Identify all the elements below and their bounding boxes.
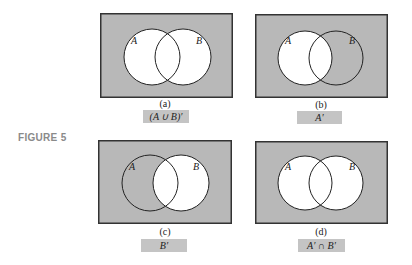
expression-a: (A ∪ B)′ [143, 110, 189, 123]
set-a-label: A [128, 161, 136, 172]
caption-d: (d) [306, 226, 336, 237]
venn-diagram-b: A B [255, 14, 388, 98]
caption-a: (a) [150, 98, 180, 109]
venn-panel-c: A B [98, 140, 232, 224]
venn-panel-d: A B [255, 141, 388, 224]
set-a-label: A [284, 161, 292, 172]
caption-c: (c) [150, 226, 180, 237]
set-b-label: B [193, 161, 199, 172]
set-a-label: A [284, 35, 292, 46]
set-b-label: B [349, 35, 355, 46]
venn-diagram-d: A B [255, 141, 388, 224]
venn-diagram-a: A B [100, 13, 233, 98]
venn-diagram-c: A B [98, 140, 232, 224]
set-a-label: A [130, 35, 138, 46]
set-b-label: B [349, 161, 355, 172]
set-b-label: B [196, 35, 202, 46]
expression-c: B′ [141, 239, 187, 252]
figure-label: FIGURE 5 [18, 132, 67, 143]
venn-panel-a: A B [100, 13, 233, 98]
expression-b: A′ [297, 111, 342, 124]
venn-panel-b: A B [255, 14, 388, 98]
expression-d: A′ ∩ B′ [298, 239, 345, 252]
caption-b: (b) [306, 99, 336, 110]
